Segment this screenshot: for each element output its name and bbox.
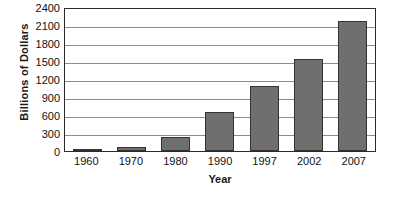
x-axis-tick-label: 1990 bbox=[198, 155, 243, 167]
bar bbox=[161, 137, 190, 151]
x-axis-tick-label: 1960 bbox=[64, 155, 109, 167]
bar-series bbox=[65, 9, 375, 151]
bar-chart: Billions of Dollars 03006009001200150018… bbox=[0, 0, 394, 201]
y-axis-tick-labels: 030060090012001500180021002400 bbox=[24, 8, 60, 152]
bar bbox=[294, 59, 323, 151]
bar bbox=[117, 147, 146, 151]
bar-slot bbox=[65, 9, 109, 151]
bar bbox=[338, 21, 367, 151]
y-axis-tick-label: 300 bbox=[24, 129, 60, 140]
bar-slot bbox=[198, 9, 242, 151]
bar-slot bbox=[242, 9, 286, 151]
x-axis-tick-labels: 1960197019801990199720022007 bbox=[64, 155, 376, 167]
y-axis-tick-label: 2100 bbox=[24, 21, 60, 32]
x-axis-tick-label: 1980 bbox=[153, 155, 198, 167]
bar-slot bbox=[109, 9, 153, 151]
bar-slot bbox=[331, 9, 375, 151]
y-axis-tick-label: 1800 bbox=[24, 39, 60, 50]
x-axis-title: Year bbox=[64, 173, 376, 185]
bar-slot bbox=[286, 9, 330, 151]
y-axis-tick-label: 2400 bbox=[24, 3, 60, 14]
y-axis-tick-label: 0 bbox=[24, 147, 60, 158]
x-axis-tick-label: 2002 bbox=[287, 155, 332, 167]
x-axis-tick-label: 1997 bbox=[242, 155, 287, 167]
bar bbox=[73, 149, 102, 151]
bar bbox=[250, 86, 279, 151]
y-axis-tick-label: 900 bbox=[24, 93, 60, 104]
plot-area bbox=[64, 8, 376, 152]
y-axis-tick-label: 600 bbox=[24, 111, 60, 122]
y-axis-tick-label: 1500 bbox=[24, 57, 60, 68]
x-axis-tick-label: 2007 bbox=[331, 155, 376, 167]
x-axis-tick-label: 1970 bbox=[109, 155, 154, 167]
y-axis-tick-label: 1200 bbox=[24, 75, 60, 86]
bar-slot bbox=[154, 9, 198, 151]
bar bbox=[205, 112, 234, 151]
